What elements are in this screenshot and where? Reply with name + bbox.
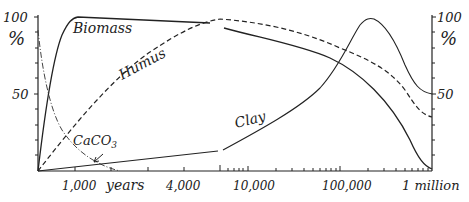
x-label-1000: 1,000 (62, 179, 97, 193)
left-y-label-percent: % (8, 28, 25, 49)
label-biomass: Biomass (72, 20, 132, 36)
x-ticks (75, 165, 428, 171)
x-label-1million: 1 million (402, 178, 460, 193)
label-caco3: CaCO3 (73, 133, 117, 150)
left-y-label-50: 50 (12, 87, 29, 102)
x-label-years: years (105, 177, 144, 193)
right-y-label-50: 50 (437, 87, 454, 102)
label-humus: Humus (115, 45, 168, 83)
x-label-100000: 100,000 (322, 179, 372, 193)
soil-development-chart: Biomass Humus CaCO3 Clay 100 % 50 100 % … (0, 0, 469, 202)
caco3-curve (38, 30, 120, 171)
right-y-label-percent: % (440, 28, 457, 49)
humus-curve (38, 19, 432, 171)
x-label-10000: 10,000 (233, 179, 275, 193)
caco3-arrow-icon (94, 154, 103, 162)
right-y-label-100: 100 (437, 10, 462, 25)
left-y-label-100: 100 (3, 10, 28, 25)
x-label-4000: 4,000 (165, 179, 201, 193)
clay-curve (38, 19, 432, 171)
